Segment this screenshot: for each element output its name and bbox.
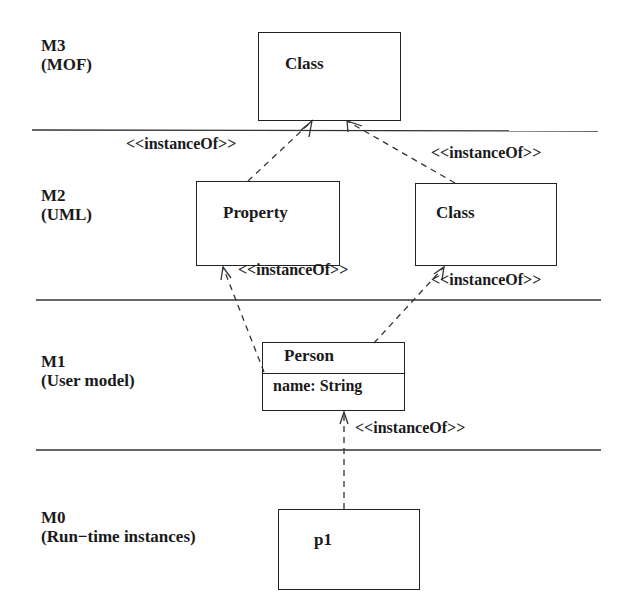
layer-subtitle: (User model) bbox=[41, 371, 135, 390]
m1-person-box[interactable]: Person name: String bbox=[262, 342, 405, 411]
class-name: Class bbox=[436, 203, 475, 223]
layer-id: M2 bbox=[41, 186, 92, 205]
m2-class-box[interactable]: Class bbox=[415, 183, 557, 266]
layer-subtitle: (Run−time instances) bbox=[41, 527, 196, 546]
m0-p1-box[interactable]: p1 bbox=[278, 509, 420, 590]
stereotype-label: <<instanceOf>> bbox=[126, 135, 236, 153]
layer-subtitle: (MOF) bbox=[41, 55, 92, 74]
relation-person-to-property bbox=[223, 267, 264, 372]
layer-label-m1: M1 (User model) bbox=[41, 352, 135, 390]
layer-id: M0 bbox=[41, 508, 196, 527]
instance-name: p1 bbox=[314, 530, 332, 550]
stereotype-label: <<instanceOf>> bbox=[431, 271, 541, 289]
layer-id: M3 bbox=[41, 36, 92, 55]
class-name: Property bbox=[223, 203, 288, 223]
stereotype-label: <<instanceOf>> bbox=[238, 261, 348, 279]
arrowhead-icon bbox=[300, 121, 312, 137]
layer-id: M1 bbox=[41, 352, 135, 371]
layer-label-m2: M2 (UML) bbox=[41, 186, 92, 224]
compartment-divider bbox=[263, 373, 404, 374]
arrowhead-icon bbox=[221, 267, 231, 280]
attribute: name: String bbox=[273, 377, 362, 395]
layer-label-m0: M0 (Run−time instances) bbox=[41, 508, 196, 546]
stereotype-label: <<instanceOf>> bbox=[431, 144, 541, 162]
layer-label-m3: M3 (MOF) bbox=[41, 36, 92, 74]
layer-separator-m3-m2 bbox=[32, 130, 598, 131]
m2-property-box[interactable]: Property bbox=[196, 181, 340, 266]
layer-subtitle: (UML) bbox=[41, 205, 92, 224]
class-name: Person bbox=[284, 346, 334, 366]
m3-class-box[interactable]: Class bbox=[258, 32, 401, 121]
stereotype-label: <<instanceOf>> bbox=[355, 419, 465, 437]
class-name: Class bbox=[285, 54, 324, 74]
